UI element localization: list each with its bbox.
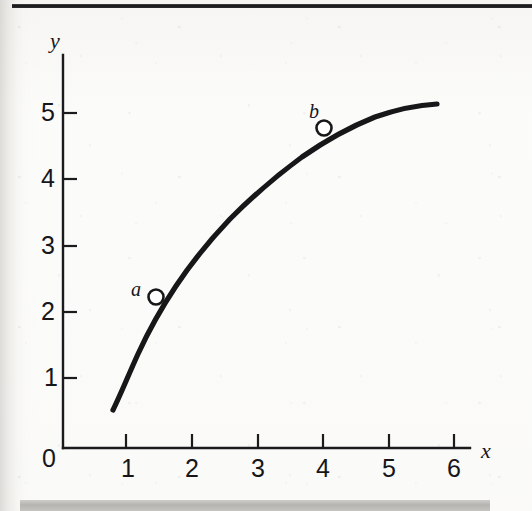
x-tick-label-2: 2 xyxy=(185,456,199,481)
point-b-marker[interactable] xyxy=(317,121,332,136)
y-axis-label: y xyxy=(50,30,60,52)
y-tick-label-3: 3 xyxy=(41,233,55,258)
data-curve xyxy=(113,104,437,410)
x-tick-label-4: 4 xyxy=(316,456,330,481)
y-tick-label-2: 2 xyxy=(41,299,55,324)
x-tick-label-6: 6 xyxy=(447,456,461,481)
plot-area xyxy=(0,0,532,511)
y-tick-label-1: 1 xyxy=(44,365,58,390)
figure-root: y x 0 5 4 3 2 1 1 2 3 4 5 6 a b xyxy=(0,0,532,511)
y-axis-ticks xyxy=(63,113,77,378)
x-axis-ticks xyxy=(126,434,454,448)
x-tick-label-1: 1 xyxy=(121,456,135,481)
origin-tick-label: 0 xyxy=(42,446,56,471)
y-tick-label-5: 5 xyxy=(41,100,55,125)
x-tick-label-3: 3 xyxy=(251,456,265,481)
y-tick-label-4: 4 xyxy=(41,166,55,191)
x-tick-label-5: 5 xyxy=(382,456,396,481)
point-a-label: a xyxy=(131,279,141,299)
point-b-label: b xyxy=(309,101,319,121)
x-axis-label: x xyxy=(481,440,491,462)
point-a-marker[interactable] xyxy=(149,290,164,305)
